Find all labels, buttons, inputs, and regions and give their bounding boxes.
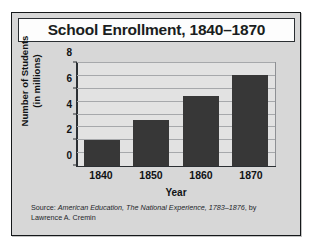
source-suffix: ,: [245, 203, 247, 212]
chart-figure: School Enrollment, 1840–1870 Number of S…: [11, 12, 301, 236]
y-axis-title-line-2: (in millions): [31, 54, 43, 107]
source-title-italic: American Education, The National Experie…: [58, 203, 245, 212]
bar-1850: [133, 120, 169, 166]
y-axis-tick-label: 6: [66, 74, 72, 84]
chart-title-band: School Enrollment, 1840–1870: [18, 18, 295, 42]
bar-1860: [183, 96, 219, 166]
y-axis-tick-label: 2: [66, 125, 72, 135]
plot-area: 02468: [76, 62, 276, 167]
bar-slot: [77, 63, 127, 166]
source-note: Source: American Education, The National…: [31, 203, 289, 222]
x-axis-tick-labels: 1840185018601870: [76, 169, 276, 181]
bar-series: [77, 63, 275, 166]
page-title: School Enrollment, 1840–1870: [48, 22, 266, 38]
y-axis-tick-label: 8: [66, 48, 72, 58]
y-axis-title-line-1: Number of Students: [19, 36, 31, 127]
x-axis-tick-label: 1860: [176, 169, 226, 181]
bar-slot: [226, 63, 276, 166]
chart-plot-region: Number of Students (in millions) 02468 1…: [12, 44, 300, 204]
y-axis-title: Number of Students (in millions): [16, 22, 46, 140]
x-axis-tick-label: 1850: [126, 169, 176, 181]
bar-1870: [232, 75, 268, 166]
x-axis-tick-label: 1840: [76, 169, 126, 181]
bar-1840: [84, 140, 120, 166]
y-axis-tick-label: 4: [66, 100, 72, 110]
source-prefix: Source:: [31, 203, 58, 212]
bar-slot: [127, 63, 177, 166]
source-line-1: Source: American Education, The National…: [31, 203, 247, 212]
y-axis-tick-label: 0: [66, 151, 72, 161]
bar-slot: [176, 63, 226, 166]
x-axis-title: Year: [76, 187, 276, 198]
x-axis-tick-label: 1870: [226, 169, 276, 181]
